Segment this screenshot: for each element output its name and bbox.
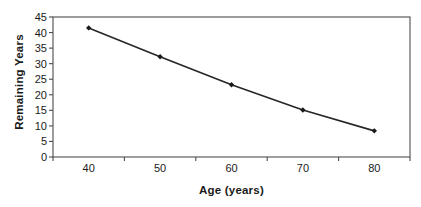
x-axis-ticks bbox=[53, 157, 410, 161]
y-axis-ticks bbox=[49, 17, 53, 157]
plot-area bbox=[0, 0, 421, 207]
line-chart: Remaining Years 051015202530354045 40506… bbox=[0, 0, 421, 207]
